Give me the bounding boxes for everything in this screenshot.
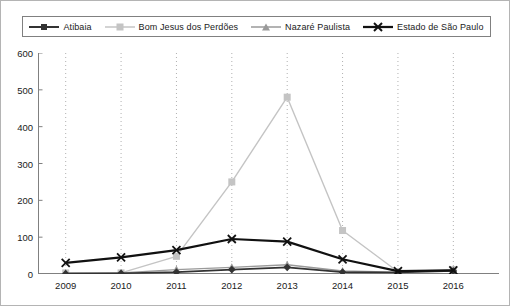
chart-legend: Atibaia Bom Jesus dos Perdões Nazaré Pau… (22, 16, 491, 37)
data-point-diamond (339, 268, 347, 274)
y-tick-label: 100 (3, 232, 33, 243)
diamond-marker-icon (29, 21, 59, 33)
legend-item-estado-de-sao-paulo: Estado de São Paulo (363, 21, 483, 33)
legend-label-estado-de-sao-paulo: Estado de São Paulo (397, 22, 483, 32)
data-point-square (228, 178, 235, 185)
y-tick-label: 200 (3, 195, 33, 206)
chart-canvas (38, 53, 499, 274)
legend-label-bom-jesus-dos-perdoes: Bom Jesus dos Perdões (139, 22, 239, 32)
legend-item-atibaia: Atibaia (29, 21, 91, 33)
data-point-square (284, 94, 291, 101)
series-bom-jesus-dos-perd-es (62, 94, 457, 274)
y-tick-label: 500 (3, 84, 33, 95)
chart-figure: Atibaia Bom Jesus dos Perdões Nazaré Pau… (0, 0, 510, 306)
x-tick-label: 2013 (264, 280, 310, 291)
legend-item-nazare-paulista: Nazaré Paulista (251, 21, 350, 33)
legend-label-nazare-paulista: Nazaré Paulista (285, 22, 350, 32)
plot-area (38, 53, 499, 274)
y-tick-label: 600 (3, 48, 33, 59)
x-tick-label: 2016 (430, 280, 476, 291)
data-point-square (173, 253, 180, 260)
x-tick-label: 2012 (209, 280, 255, 291)
legend-item-bom-jesus-dos-perdoes: Bom Jesus dos Perdões (105, 21, 239, 33)
data-point-square (339, 227, 346, 234)
series-line (66, 97, 454, 273)
y-tick-label: 0 (3, 269, 33, 280)
triangle-marker-icon (251, 21, 281, 33)
y-tick-label: 400 (3, 121, 33, 132)
x-tick-label: 2014 (320, 280, 366, 291)
x-tick-label: 2010 (98, 280, 144, 291)
y-tick-label: 300 (3, 158, 33, 169)
x-tick-label: 2009 (43, 280, 89, 291)
triangle-glyph (262, 23, 270, 30)
legend-label-atibaia: Atibaia (63, 22, 91, 32)
x-tick-label: 2011 (153, 280, 199, 291)
x-tick-label: 2015 (375, 280, 421, 291)
square-marker-icon (105, 21, 135, 33)
cross-marker-icon (363, 21, 393, 33)
diamond-glyph (41, 24, 47, 30)
cross-glyph (373, 21, 384, 32)
square-glyph (116, 23, 123, 30)
